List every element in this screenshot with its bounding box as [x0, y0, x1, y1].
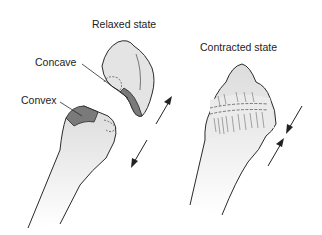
- convex-label: Convex: [21, 94, 57, 106]
- contracted-arrow-up-icon: [268, 138, 284, 166]
- relaxed-state-title: Relaxed state: [92, 18, 156, 30]
- relaxed-arrow-up-icon: [156, 96, 172, 124]
- relaxed-upper-bone: [102, 41, 154, 117]
- contracted-arrow-down-icon: [286, 106, 302, 134]
- relaxed-lower-bone: [28, 106, 116, 228]
- contracted-bone: [190, 64, 276, 215]
- relaxed-arrow-down-icon: [131, 140, 147, 168]
- contracted-state-title: Contracted state: [200, 41, 277, 53]
- diagram-canvas: [0, 0, 322, 235]
- concave-label: Concave: [35, 56, 76, 68]
